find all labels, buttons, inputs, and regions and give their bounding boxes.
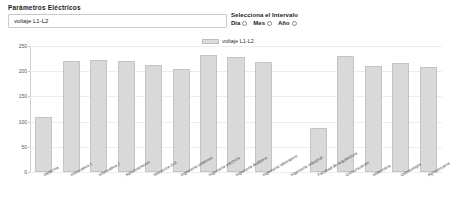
chart-legend: voltaje L1-L2 [0,38,456,44]
bar[interactable] [173,69,190,172]
legend-label: voltaje L1-L2 [222,38,254,44]
x-axis-labels: MedicinaInformática 1Informática 2Admini… [30,174,442,204]
interval-option-dia[interactable]: Día [231,20,247,26]
interval-radio-group: Día Mes Año [231,20,303,26]
interval-option-dia-label: Día [231,20,240,26]
bar[interactable] [392,63,409,172]
y-axis-tick-label: 0 [24,170,27,175]
bar[interactable] [227,57,244,172]
y-axis-tick-mark [28,172,30,173]
interval-option-ano-label: Año [278,20,290,26]
radio-icon[interactable] [242,21,247,26]
interval-option-ano[interactable]: Año [278,20,297,26]
plot-area: 050100150200250 [30,46,442,172]
bar-chart: voltaje L1-L2 050100150200250 MedicinaIn… [0,36,456,204]
interval-selector: Selecciona el Intervalo Día Mes Año [231,12,303,26]
interval-option-mes-label: Mes [253,20,265,26]
bar[interactable] [118,61,135,172]
y-axis-tick-label: 100 [19,119,27,124]
y-axis-tick-label: 150 [19,94,27,99]
bar[interactable] [145,65,162,172]
radio-icon[interactable] [267,21,272,26]
bar[interactable] [200,55,217,172]
electrical-parameters-page: Parámetros Eléctricos Selecciona el Inte… [0,0,456,204]
y-axis-tick-label: 200 [19,69,27,74]
bar[interactable] [420,67,437,172]
interval-option-mes[interactable]: Mes [253,20,272,26]
bar[interactable] [365,66,382,172]
interval-title: Selecciona el Intervalo [231,12,303,18]
y-axis-tick-label: 50 [21,144,27,149]
bar[interactable] [63,61,80,172]
parameter-input[interactable] [8,14,227,28]
bar[interactable] [90,60,107,172]
y-axis-tick-label: 250 [19,44,27,49]
page-title: Parámetros Eléctricos [8,4,81,11]
bar-series [30,46,442,172]
radio-icon[interactable] [292,21,297,26]
bar[interactable] [35,117,52,172]
legend-swatch-icon [202,39,219,44]
